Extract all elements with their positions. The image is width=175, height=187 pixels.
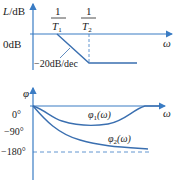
phi2-label: φ2(ω) xyxy=(108,133,131,146)
corner2-numerator: 1 xyxy=(86,5,92,17)
bode-diagram: L/dB ω 0dB 1 T1 1 T2 −20dB/dec φ ω 0° −9… xyxy=(0,0,175,187)
corner1-denominator: T1 xyxy=(52,20,62,34)
tick-0: 0° xyxy=(12,109,21,120)
phase-plot: φ ω 0° −90° −180° φ1(ω) φ2(ω) xyxy=(1,87,171,180)
slope-label: −20dB/dec xyxy=(34,58,79,69)
tick-minus180: −180° xyxy=(1,146,26,157)
phase-x-label: ω xyxy=(163,107,171,119)
slope-leader xyxy=(60,48,70,58)
tick-minus90: −90° xyxy=(4,126,24,137)
zero-db-label: 0dB xyxy=(3,38,21,50)
corner2-denominator: T2 xyxy=(82,20,92,34)
magnitude-y-label: L/dB xyxy=(2,5,25,17)
magnitude-plot: L/dB ω 0dB 1 T1 1 T2 −20dB/dec xyxy=(2,4,172,70)
corner1-numerator: 1 xyxy=(55,5,61,17)
phase-y-label: φ xyxy=(23,87,29,99)
phi1-label: φ1(ω) xyxy=(88,109,111,122)
magnitude-x-label: ω xyxy=(163,37,171,49)
